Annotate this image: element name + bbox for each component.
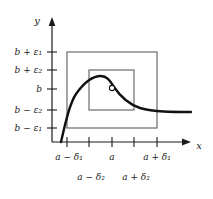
y-tick-label-b-minus-eps2: b − ε₂ bbox=[15, 105, 43, 115]
x-axis-arrowhead bbox=[182, 139, 191, 146]
x-tick-label-a: a bbox=[109, 152, 114, 162]
y-tick-label-b-minus-eps1: b − ε₁ bbox=[15, 123, 42, 133]
epsilon-delta-figure: y x b + ε₁ b + ε₂ b b − ε₂ b − ε₁ a − δ₁… bbox=[0, 0, 213, 199]
axes-group bbox=[49, 17, 191, 145]
x-tick-label-a-plus-delta2: a + δ₂ bbox=[122, 172, 150, 182]
function-curve bbox=[61, 76, 191, 142]
x-tick-label-a-minus-delta1: a − δ₁ bbox=[55, 152, 83, 162]
x-tick-label-a-minus-delta2: a − δ₂ bbox=[77, 172, 105, 182]
y-tick-label-b-plus-eps1: b + ε₁ bbox=[15, 47, 42, 57]
y-tick-label-b-plus-eps2: b + ε₂ bbox=[15, 65, 43, 75]
figure-canvas: y x b + ε₁ b + ε₂ b b − ε₂ b − ε₁ a − δ₁… bbox=[0, 0, 213, 199]
y-tick-label-b: b bbox=[36, 84, 42, 94]
removable-discontinuity-point bbox=[109, 85, 114, 90]
y-axis-label: y bbox=[33, 15, 40, 26]
y-axis-arrowhead bbox=[49, 17, 56, 26]
x-tick-label-a-plus-delta1: a + δ₁ bbox=[143, 152, 171, 162]
x-axis-label: x bbox=[196, 140, 202, 151]
